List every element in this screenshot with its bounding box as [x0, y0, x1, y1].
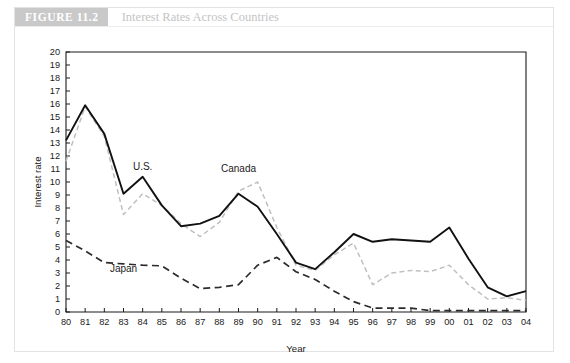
x-tick-label: 85 — [157, 317, 167, 327]
x-tick-label: 94 — [329, 317, 339, 327]
x-tick-label: 04 — [521, 317, 531, 327]
y-tick-label: 18 — [50, 73, 60, 83]
y-tick-label: 0 — [55, 307, 60, 317]
x-tick-label: 01 — [463, 317, 473, 327]
y-tick-label: 2 — [55, 281, 60, 291]
series-annotation-japan: Japan — [110, 263, 137, 274]
y-tick-label: 8 — [55, 203, 60, 213]
y-tick-label: 20 — [50, 47, 60, 57]
x-tick-label: 97 — [387, 317, 397, 327]
x-tick-label: 96 — [368, 317, 378, 327]
y-tick-label: 12 — [50, 151, 60, 161]
y-tick-label: 14 — [50, 125, 60, 135]
x-tick-label: 92 — [291, 317, 301, 327]
y-tick-label: 15 — [50, 112, 60, 122]
y-tick-label: 6 — [55, 229, 60, 239]
y-tick-label: 13 — [50, 138, 60, 148]
x-tick-label: 88 — [214, 317, 224, 327]
x-tick-label: 82 — [99, 317, 109, 327]
series-annotation-canada: Canada — [221, 163, 256, 174]
x-tick-label: 02 — [483, 317, 493, 327]
y-tick-label: 17 — [50, 86, 60, 96]
x-tick-label: 90 — [253, 317, 263, 327]
chart-container: 01234567891011121314151617181920 8081828… — [0, 30, 570, 363]
x-tick-label: 81 — [80, 317, 90, 327]
y-axis: 01234567891011121314151617181920 — [50, 47, 70, 317]
annotation-layer: U.S.CanadaJapan — [110, 161, 257, 274]
series-annotation-us: U.S. — [133, 161, 152, 172]
x-tick-label: 99 — [425, 317, 435, 327]
interest-rates-line-chart: 01234567891011121314151617181920 8081828… — [0, 30, 570, 363]
x-tick-label: 98 — [406, 317, 416, 327]
x-tick-label: 00 — [444, 317, 454, 327]
header-divider — [15, 26, 553, 27]
x-axis-title: Year — [286, 343, 306, 354]
y-tick-label: 7 — [55, 216, 60, 226]
x-tick-label: 95 — [348, 317, 358, 327]
x-tick-label: 86 — [176, 317, 186, 327]
y-tick-label: 1 — [55, 294, 60, 304]
y-tick-label: 16 — [50, 99, 60, 109]
series-line-japan — [66, 241, 526, 311]
x-tick-label: 84 — [138, 317, 148, 327]
y-tick-label: 10 — [50, 177, 60, 187]
y-tick-label: 9 — [55, 190, 60, 200]
figure-number-badge: FIGURE 11.2 — [15, 8, 108, 26]
x-tick-label: 80 — [61, 317, 71, 327]
x-tick-label: 93 — [310, 317, 320, 327]
y-tick-label: 5 — [55, 242, 60, 252]
x-tick-label: 03 — [502, 317, 512, 327]
series-layer — [66, 105, 526, 310]
y-axis-title: Interest rate — [32, 156, 43, 207]
x-tick-label: 91 — [272, 317, 282, 327]
figure-header: FIGURE 11.2 Interest Rates Across Countr… — [15, 8, 279, 26]
y-tick-label: 11 — [50, 164, 60, 174]
x-tick-label: 83 — [118, 317, 128, 327]
x-tick-label: 87 — [195, 317, 205, 327]
y-tick-label: 3 — [55, 268, 60, 278]
y-tick-label: 19 — [50, 60, 60, 70]
y-tick-label: 4 — [55, 255, 60, 265]
x-tick-label: 89 — [233, 317, 243, 327]
figure-caption: Interest Rates Across Countries — [108, 8, 279, 26]
